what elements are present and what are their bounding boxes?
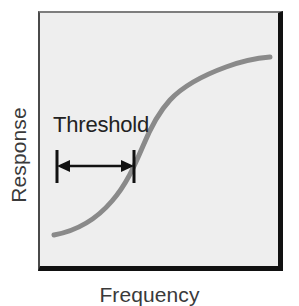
y-axis-label: Response [0, 0, 36, 301]
y-axis-label-text: Response [8, 107, 29, 202]
threshold-arrowhead-right [121, 160, 134, 172]
plot-area [40, 13, 278, 266]
x-axis-label: Frequency [0, 284, 299, 305]
threshold-arrowhead-left [57, 160, 70, 172]
response-curve-svg [40, 13, 278, 266]
plot-frame [38, 11, 283, 271]
threshold-label: Threshold [53, 114, 149, 136]
response-curve-path [54, 57, 270, 235]
threshold-annotation-svg [40, 13, 278, 266]
